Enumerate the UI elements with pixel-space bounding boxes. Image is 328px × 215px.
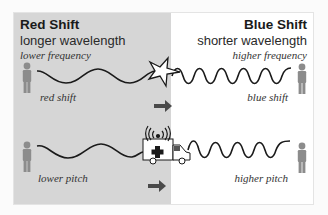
person-icon: [298, 64, 306, 94]
ambulance-icon: [143, 139, 190, 164]
long-wave-top: [37, 69, 155, 83]
person-icon: [298, 143, 306, 173]
doppler-illustration: [0, 0, 328, 215]
long-wave-bottom: [37, 144, 143, 158]
short-wave-top: [172, 68, 291, 84]
star-icon: [149, 58, 180, 86]
arrow-right-icon: [154, 100, 172, 112]
short-wave-bottom: [188, 141, 290, 158]
person-icon: [23, 142, 31, 172]
arrow-right-icon: [148, 180, 166, 192]
person-icon: [23, 63, 31, 93]
